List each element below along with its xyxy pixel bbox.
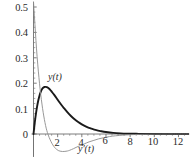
x-tick-label-2: 2 — [49, 137, 65, 148]
curve-label-y-prime: y'(t) — [78, 143, 94, 154]
y-tick-label-0-1: 0.1 — [2, 104, 28, 115]
plot-figure: 0.5 0.4 0.3 0.2 0.1 0 2 4 6 8 10 12 y(t)… — [0, 0, 194, 163]
x-tick-label-12: 12 — [170, 136, 186, 147]
x-tick-label-6: 6 — [97, 135, 113, 146]
y-tick-label-0-3: 0.3 — [2, 53, 28, 64]
y-tick-label-0-5: 0.5 — [2, 2, 28, 13]
y-tick-label-0-4: 0.4 — [2, 27, 28, 38]
series-line-y — [34, 87, 189, 134]
y-tick-label-0: 0 — [2, 129, 28, 140]
curve-label-y: y(t) — [48, 71, 62, 82]
y-tick-label-0-2: 0.2 — [2, 78, 28, 89]
x-tick-label-8: 8 — [122, 136, 138, 147]
x-tick-label-10: 10 — [145, 136, 161, 147]
